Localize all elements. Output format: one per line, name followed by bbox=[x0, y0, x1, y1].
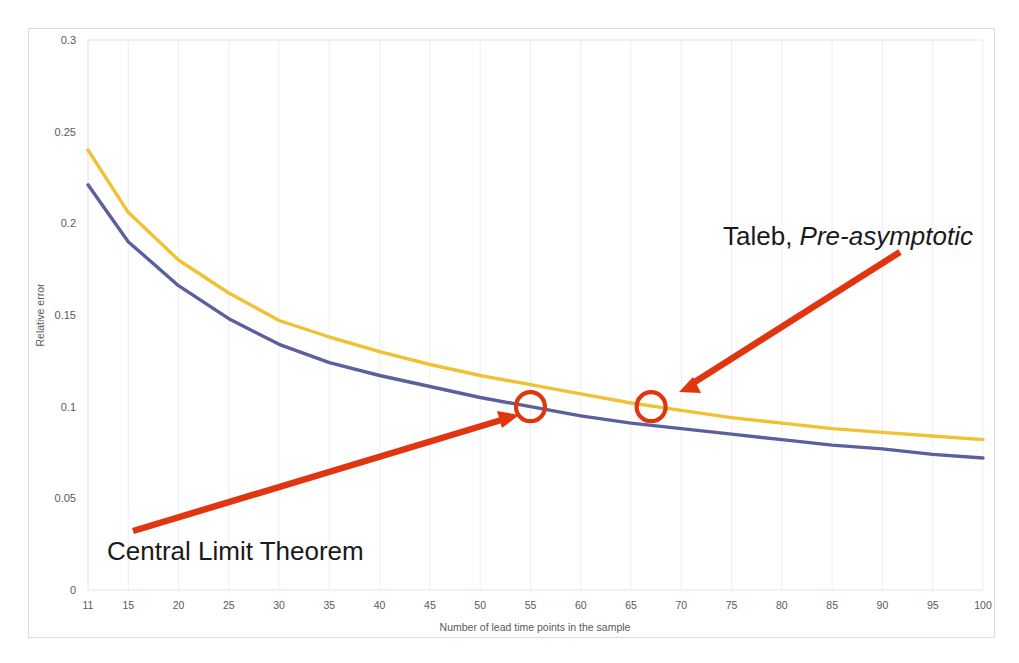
x-tick-label-80: 80 bbox=[776, 599, 788, 611]
annotation-label-taleb: Taleb, Pre-asymptotic bbox=[723, 221, 973, 251]
x-tick-label-11: 11 bbox=[83, 599, 94, 611]
y-tick-label-0.05: 0.05 bbox=[55, 492, 76, 504]
y-tick-label-0.3: 0.3 bbox=[61, 34, 76, 46]
x-tick-label-60: 60 bbox=[575, 599, 587, 611]
x-axis-title: Number of lead time points in the sample bbox=[440, 621, 631, 633]
x-tick-label-45: 45 bbox=[424, 599, 436, 611]
y-tick-label-0.25: 0.25 bbox=[55, 126, 76, 138]
x-tick-label-30: 30 bbox=[273, 599, 285, 611]
x-tick-label-75: 75 bbox=[726, 599, 738, 611]
y-axis-title: Relative error bbox=[34, 283, 46, 347]
x-tick-label-55: 55 bbox=[525, 599, 537, 611]
x-tick-label-90: 90 bbox=[877, 599, 889, 611]
annotation-label-taleb-plain: Taleb, bbox=[723, 221, 800, 251]
annotation-label-clt-plain: Central Limit Theorem bbox=[107, 536, 364, 566]
x-tick-label-70: 70 bbox=[675, 599, 687, 611]
x-tick-label-65: 65 bbox=[625, 599, 637, 611]
x-tick-label-85: 85 bbox=[826, 599, 838, 611]
y-tick-label-0.1: 0.1 bbox=[61, 401, 76, 413]
x-tick-label-50: 50 bbox=[474, 599, 486, 611]
y-axis-tick-labels: 00.050.10.150.20.250.3 bbox=[55, 34, 76, 596]
x-tick-label-35: 35 bbox=[324, 599, 336, 611]
x-tick-label-20: 20 bbox=[173, 599, 185, 611]
x-tick-label-15: 15 bbox=[122, 599, 134, 611]
x-axis-tick-labels: 111520253035404550556065707580859095100 bbox=[83, 599, 992, 611]
y-tick-label-0.2: 0.2 bbox=[61, 217, 76, 229]
chart-figure: 00.050.10.150.20.250.3 11152025303540455… bbox=[0, 0, 1019, 663]
y-tick-label-0: 0 bbox=[70, 584, 76, 596]
x-tick-label-100: 100 bbox=[974, 599, 992, 611]
annotation-label-taleb-emphasis: Pre-asymptotic bbox=[800, 221, 973, 251]
x-tick-label-95: 95 bbox=[927, 599, 939, 611]
chart-canvas: 00.050.10.150.20.250.3 11152025303540455… bbox=[0, 0, 1019, 663]
x-tick-label-25: 25 bbox=[223, 599, 235, 611]
x-tick-label-40: 40 bbox=[374, 599, 386, 611]
y-tick-label-0.15: 0.15 bbox=[55, 309, 76, 321]
annotation-label-central-limit-theorem: Central Limit Theorem bbox=[107, 536, 364, 566]
